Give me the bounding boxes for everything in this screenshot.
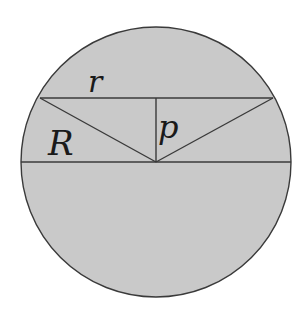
label-r: r [88,64,104,99]
label-R: R [47,123,74,163]
circle-chord-diagram: r R p [0,0,306,315]
label-p: p [158,108,178,146]
